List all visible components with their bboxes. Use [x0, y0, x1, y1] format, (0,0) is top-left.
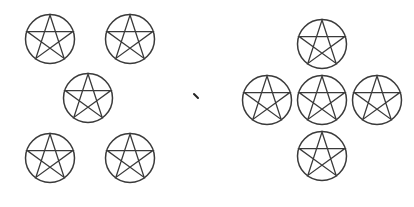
pentagram-star: [107, 15, 153, 58]
pentacle-icon-left: [243, 76, 292, 125]
circle-outline: [106, 15, 155, 64]
circle-outline: [106, 134, 155, 183]
circle-outline: [64, 74, 113, 123]
pentacle-diagram: [0, 0, 414, 207]
pentacle-icon-top-right: [106, 15, 155, 64]
circle-outline: [298, 76, 347, 125]
pentagram-star: [27, 134, 73, 177]
pentagram-star: [244, 76, 290, 119]
pentacle-icon-bottom: [298, 132, 347, 181]
pentacle-icon-center: [298, 76, 347, 125]
pentacle-icon-top-left: [26, 15, 75, 64]
pentacle-icon-bottom-left: [26, 134, 75, 183]
circle-outline: [26, 134, 75, 183]
pentacle-icon-top: [298, 20, 347, 69]
circle-outline: [298, 20, 347, 69]
pentacle-icon-right: [353, 76, 402, 125]
pentagram-star: [27, 15, 73, 58]
quincunx-arrangement: [26, 15, 155, 183]
circle-outline: [243, 76, 292, 125]
circle-outline: [353, 76, 402, 125]
pentagram-star: [299, 132, 345, 175]
circle-outline: [298, 132, 347, 181]
circle-outline: [26, 15, 75, 64]
separator-mark: [194, 94, 198, 98]
pentacle-icon-bottom-right: [106, 134, 155, 183]
pentagram-star: [299, 76, 345, 119]
pentagram-star: [299, 20, 345, 63]
cross-arrangement: [243, 20, 402, 181]
pentacle-icon-center: [64, 74, 113, 123]
pentagram-star: [107, 134, 153, 177]
pentagram-star: [354, 76, 400, 119]
pentagram-star: [65, 74, 111, 117]
